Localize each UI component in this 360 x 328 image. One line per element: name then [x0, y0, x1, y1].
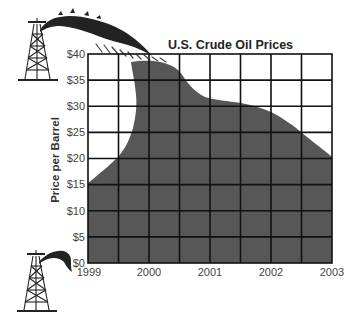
- y-tick-30: $30: [45, 100, 85, 112]
- y-tick-15: $15: [45, 178, 85, 190]
- x-tick-2002: 2002: [251, 266, 291, 278]
- x-tick-2003: 2003: [312, 266, 352, 278]
- y-tick-10: $10: [45, 205, 85, 217]
- y-tick-40: $40: [45, 48, 85, 60]
- oil-spray-drops: [96, 44, 166, 62]
- y-tick-5: $5: [45, 231, 85, 243]
- y-tick-35: $35: [45, 74, 85, 86]
- chart-title: U.S. Crude Oil Prices: [168, 38, 293, 52]
- x-tick-2001: 2001: [190, 266, 230, 278]
- y-tick-25: $25: [45, 126, 85, 138]
- x-tick-2000: 2000: [129, 266, 169, 278]
- x-tick-1999: 1999: [69, 266, 109, 278]
- y-tick-20: $20: [45, 152, 85, 164]
